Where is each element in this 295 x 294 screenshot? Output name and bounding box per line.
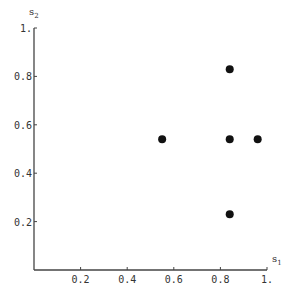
x-tick-label: 0.8 bbox=[211, 274, 229, 285]
axes bbox=[34, 28, 267, 270]
x-tick-label: 0.4 bbox=[118, 274, 136, 285]
data-point bbox=[254, 135, 262, 143]
data-point bbox=[226, 65, 234, 73]
y-tick-label: 1. bbox=[20, 23, 32, 34]
scatter-chart: 0.20.40.60.81. 0.20.40.60.81. s1 s2 bbox=[0, 0, 295, 294]
x-axis-label: s1 bbox=[272, 253, 282, 267]
y-tick-label: 0.6 bbox=[14, 120, 32, 131]
y-axis-label: s2 bbox=[29, 6, 39, 20]
x-tick-label: 0.6 bbox=[165, 274, 183, 285]
x-tick-label: 0.2 bbox=[72, 274, 90, 285]
y-tick-label: 0.2 bbox=[14, 217, 32, 228]
data-point bbox=[226, 135, 234, 143]
y-tick-label: 0.8 bbox=[14, 71, 32, 82]
y-tick-label: 0.4 bbox=[14, 168, 32, 179]
data-point bbox=[226, 210, 234, 218]
data-points bbox=[158, 65, 262, 218]
data-point bbox=[158, 135, 166, 143]
x-tick-label: 1. bbox=[261, 274, 273, 285]
